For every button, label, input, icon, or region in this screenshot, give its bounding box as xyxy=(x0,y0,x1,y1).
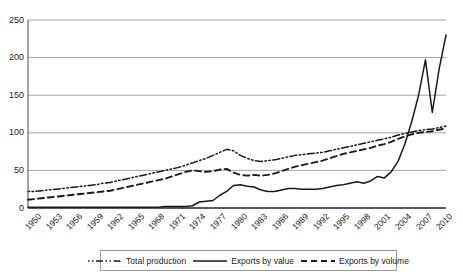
y-axis-tick-0: 0 xyxy=(0,204,24,213)
series-line-exports-by-value xyxy=(28,35,446,207)
line-chart-plot xyxy=(0,0,463,280)
legend-item-exports-by-volume: Exports by volume xyxy=(301,256,409,266)
legend-label-exports-by-volume: Exports by volume xyxy=(339,256,409,266)
legend-swatch-solid-icon xyxy=(193,257,227,265)
legend-item-total-production: Total production xyxy=(88,256,186,266)
series-line-total-production xyxy=(28,126,446,191)
chart-legend: Total production Exports by value Export… xyxy=(100,250,397,271)
legend-label-exports-by-value: Exports by value xyxy=(231,256,294,266)
y-axis-tick-250: 250 xyxy=(0,16,24,25)
chart-container: 050100150200250 195019531956195919621965… xyxy=(0,0,463,280)
y-axis-tick-50: 50 xyxy=(0,166,24,175)
y-axis-tick-200: 200 xyxy=(0,53,24,62)
y-axis-tick-100: 100 xyxy=(0,128,24,137)
legend-item-exports-by-value: Exports by value xyxy=(193,256,294,266)
y-axis-tick-150: 150 xyxy=(0,91,24,100)
legend-swatch-dash-dot-dot-icon xyxy=(88,257,122,265)
legend-swatch-dashed-icon xyxy=(301,257,335,265)
legend-label-total-production: Total production xyxy=(126,256,186,266)
